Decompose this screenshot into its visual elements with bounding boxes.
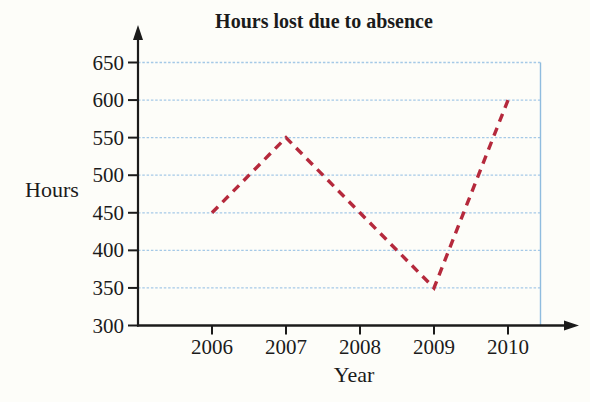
y-tick-label: 300 [93,314,125,338]
x-axis-arrowhead-icon [564,321,579,331]
y-axis-arrowhead-icon [133,25,143,40]
x-tick-label: 2010 [487,335,529,359]
x-tick-label: 2009 [413,335,455,359]
y-tick-label: 600 [93,88,125,112]
y-tick-label: 500 [93,163,125,187]
series-line [212,100,508,288]
line-chart-figure: Hours lost due to absence Hours Year 300… [0,0,590,402]
y-tick-label: 400 [93,238,125,262]
y-tick-label: 550 [93,126,125,150]
x-tick-label: 2008 [339,335,381,359]
x-axis-label: Year [334,362,375,387]
chart-canvas: Hours lost due to absence Hours Year 300… [0,0,590,402]
y-axis-label: Hours [25,177,79,202]
y-tick-label: 450 [93,201,125,225]
x-tick-label: 2007 [265,335,307,359]
axes [133,25,579,331]
tick-marks [128,63,508,335]
data-series [212,100,508,288]
chart-title: Hours lost due to absence [215,10,433,32]
x-tick-label: 2006 [191,335,233,359]
tick-labels: 3003504004505005506006502006200720082009… [93,51,530,360]
y-tick-label: 650 [93,51,125,75]
y-tick-label: 350 [93,276,125,300]
